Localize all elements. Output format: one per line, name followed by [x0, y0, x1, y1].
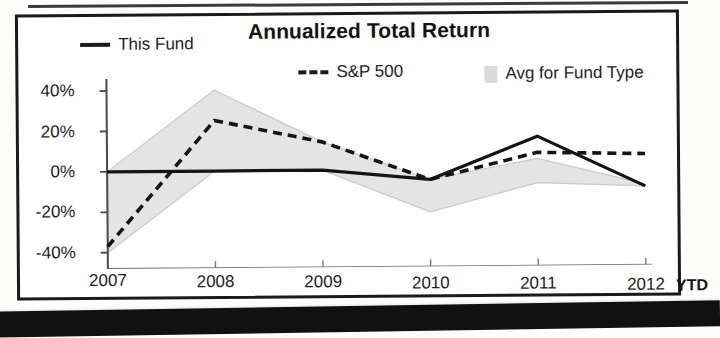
- chart-card-inner: Annualized Total Return This Fund S&P 50…: [18, 12, 678, 297]
- y-axis-tick-label: 0%: [50, 162, 75, 182]
- x-axis-labels: 200720082009201020112012YTD: [76, 266, 676, 301]
- x-axis-tick-label: 2012: [627, 275, 665, 295]
- x-axis-tick-label: 2007: [89, 271, 127, 291]
- x-axis-tick-label: 2010: [412, 273, 450, 293]
- scan-top-rule: [28, 1, 688, 8]
- solid-line-icon: [80, 43, 110, 47]
- x-axis-tick-label: 2008: [197, 271, 235, 291]
- legend-label-this-fund: This Fund: [118, 34, 194, 55]
- plot-area: [74, 75, 655, 270]
- chart-card: Annualized Total Return This Fund S&P 50…: [15, 9, 681, 300]
- y-axis-tick-label: -20%: [36, 203, 76, 223]
- x-axis-tick-label: 2011: [520, 274, 557, 294]
- x-axis-tick-label: 2009: [304, 272, 342, 292]
- y-axis-labels: 40%20%0%-20%-40%: [12, 79, 75, 269]
- scan-dark-band: [0, 300, 720, 337]
- x-axis-ytd-label: YTD: [676, 276, 708, 294]
- chart-canvas: [74, 75, 655, 270]
- legend-item-this-fund: This Fund: [80, 34, 194, 55]
- y-axis-tick-label: 20%: [41, 122, 75, 142]
- y-axis-tick-label: -40%: [36, 243, 76, 263]
- y-axis-tick-label: 40%: [40, 81, 74, 101]
- dashed-line-icon: [298, 70, 328, 74]
